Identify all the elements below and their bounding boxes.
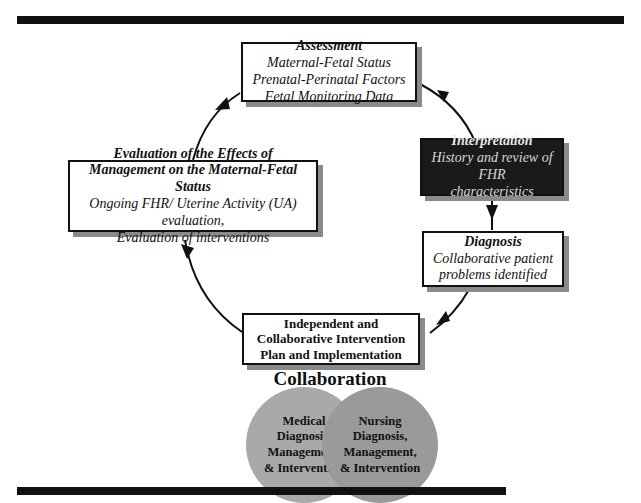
nursing-line: & Intervention	[332, 461, 428, 477]
intervention-box: Independent and Collaborative Interventi…	[242, 313, 420, 365]
evaluation-title: Evaluation of the Effects of	[70, 146, 316, 163]
diagnosis-box: Diagnosis Collaborative patient problems…	[422, 231, 564, 287]
interpretation-line: History and review of FHR	[422, 150, 562, 184]
evaluation-line: Ongoing FHR/ Uterine Activity (UA) evalu…	[70, 196, 316, 230]
evaluation-title: Management on the Maternal-Fetal Status	[70, 162, 316, 196]
interpretation-line: characteristics	[422, 184, 562, 201]
assessment-box: Assessment Maternal-Fetal Status Prenata…	[241, 42, 417, 102]
bottom-rule	[17, 487, 506, 495]
assessment-title: Assessment	[243, 38, 415, 55]
evaluation-box: Evaluation of the Effects of Management …	[68, 160, 318, 232]
nursing-line: Diagnosis,	[332, 429, 428, 445]
intervention-line: Collaborative Intervention	[244, 331, 418, 347]
nursing-line: Nursing	[332, 414, 428, 430]
interpretation-title: Interpretation	[422, 133, 562, 150]
evaluation-line: Evaluation of interventions	[70, 230, 316, 247]
assessment-line: Maternal-Fetal Status	[243, 55, 415, 72]
nursing-circle: Nursing Diagnosis, Management, & Interve…	[322, 387, 438, 503]
diagnosis-title: Diagnosis	[424, 234, 562, 251]
nursing-line: Management,	[332, 445, 428, 461]
intervention-line: Independent and	[244, 316, 418, 332]
diagnosis-line: problems identified	[424, 267, 562, 284]
intervention-line: Plan and Implementation	[244, 347, 418, 363]
assessment-line: Fetal Monitoring Data	[243, 89, 415, 106]
diagnosis-line: Collaborative patient	[424, 251, 562, 268]
collaboration-title: Collaboration	[250, 368, 410, 390]
assessment-line: Prenatal-Perinatal Factors	[243, 72, 415, 89]
interpretation-box: Interpretation History and review of FHR…	[420, 138, 564, 196]
